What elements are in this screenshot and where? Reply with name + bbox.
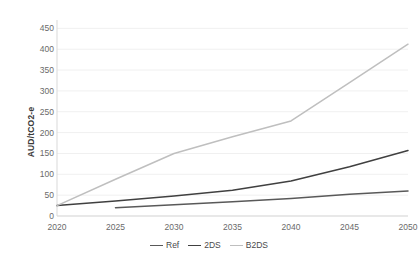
legend-item-ref[interactable]: Ref: [150, 240, 179, 250]
gridlines: [57, 28, 408, 216]
line-chart: AUD/tCO2-e 050100150200250300350400450 2…: [0, 0, 418, 263]
legend-swatch-icon: [150, 245, 163, 246]
legend-swatch-icon: [188, 245, 201, 246]
series-line-2ds: [57, 151, 408, 206]
data-series-layer: [57, 44, 408, 207]
legend-item-b2ds[interactable]: B2DS: [230, 240, 268, 250]
legend-item-2ds[interactable]: 2DS: [188, 240, 221, 250]
legend-label: B2DS: [246, 240, 268, 250]
series-line-ref: [116, 191, 409, 208]
legend-swatch-icon: [230, 245, 243, 246]
series-line-b2ds: [57, 44, 408, 205]
plot-area: [0, 0, 418, 263]
legend-label: 2DS: [204, 240, 221, 250]
legend-label: Ref: [166, 240, 179, 250]
chart-legend: Ref2DSB2DS: [0, 240, 418, 250]
